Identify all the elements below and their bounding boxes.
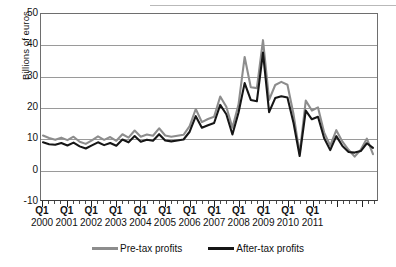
x-axis-tick: [282, 201, 283, 204]
x-axis-tick: [54, 201, 55, 204]
x-axis-tick: [79, 201, 80, 204]
y-tick-50: 50: [12, 8, 38, 18]
chart-root: Billions of euros 50 40 30 20 10 0 -10 Q…: [0, 0, 396, 267]
x-axis-label-2011: Q12011: [293, 205, 333, 229]
y-tick-40: 40: [12, 39, 38, 49]
x-axis-tick: [306, 201, 307, 204]
x-axis-tick: [73, 201, 74, 204]
x-axis-tick: [183, 201, 184, 204]
x-axis-tick: [245, 201, 246, 204]
x-axis-tick: [343, 201, 344, 204]
x-axis-tick: [159, 201, 160, 204]
x-axis-tick: [300, 201, 301, 204]
after-tax-line-swatch-icon: [208, 247, 234, 250]
x-axis-tick: [294, 201, 295, 204]
x-axis-tick: [251, 201, 252, 204]
x-axis-tick: [97, 201, 98, 204]
x-axis-tick: [60, 201, 61, 204]
x-axis-labels: Q12000Q12001Q12002Q12003Q12004Q12005Q120…: [0, 205, 396, 237]
x-axis-tick: [153, 201, 154, 204]
top-divider-line: [150, 5, 396, 6]
legend-item-pre-tax: Pre-tax profits: [92, 243, 182, 254]
x-axis-quarter: Q1: [293, 205, 333, 217]
x-axis-tick: [220, 201, 221, 204]
x-axis-tick: [202, 201, 203, 204]
x-axis-tick: [349, 201, 350, 204]
x-axis-tick: [374, 201, 375, 204]
y-tick-0: 0: [12, 165, 38, 175]
x-axis-tick: [134, 201, 135, 204]
legend-item-after-tax: After-tax profits: [208, 243, 304, 254]
legend-label-after-tax: After-tax profits: [236, 243, 304, 254]
x-axis-tick: [257, 201, 258, 204]
pre-tax-line-swatch-icon: [92, 247, 118, 250]
x-axis-tick: [128, 201, 129, 204]
legend-label-pre-tax: Pre-tax profits: [120, 243, 182, 254]
chart-legend: Pre-tax profits After-tax profits: [0, 243, 396, 254]
x-axis-tick: [325, 201, 326, 204]
y-tick-30: 30: [12, 71, 38, 81]
x-axis-year: 2011: [293, 217, 333, 229]
x-axis-tick: [269, 201, 270, 204]
x-axis-tick: [103, 201, 104, 204]
x-axis-tick: [48, 201, 49, 204]
x-axis-tick: [319, 201, 320, 204]
x-axis-tick: [208, 201, 209, 204]
y-tick-20: 20: [12, 102, 38, 112]
x-axis-tick: [196, 201, 197, 204]
x-axis-tick: [368, 201, 369, 204]
x-axis-tick: [171, 201, 172, 204]
x-axis-tick: [276, 201, 277, 204]
y-tick-10: 10: [12, 133, 38, 143]
x-axis-tick: [177, 201, 178, 204]
x-axis-tick: [356, 201, 357, 204]
x-axis-tick: [122, 201, 123, 204]
pre-tax-line: [43, 40, 373, 156]
x-axis-tick: [226, 201, 227, 204]
x-axis-tick: [85, 201, 86, 204]
x-axis-tick: [110, 201, 111, 204]
series-lines: [41, 14, 377, 201]
x-axis-tick: [147, 201, 148, 204]
plot-area: [40, 13, 378, 201]
x-axis-tick: [233, 201, 234, 204]
x-axis-tick: [331, 201, 332, 204]
